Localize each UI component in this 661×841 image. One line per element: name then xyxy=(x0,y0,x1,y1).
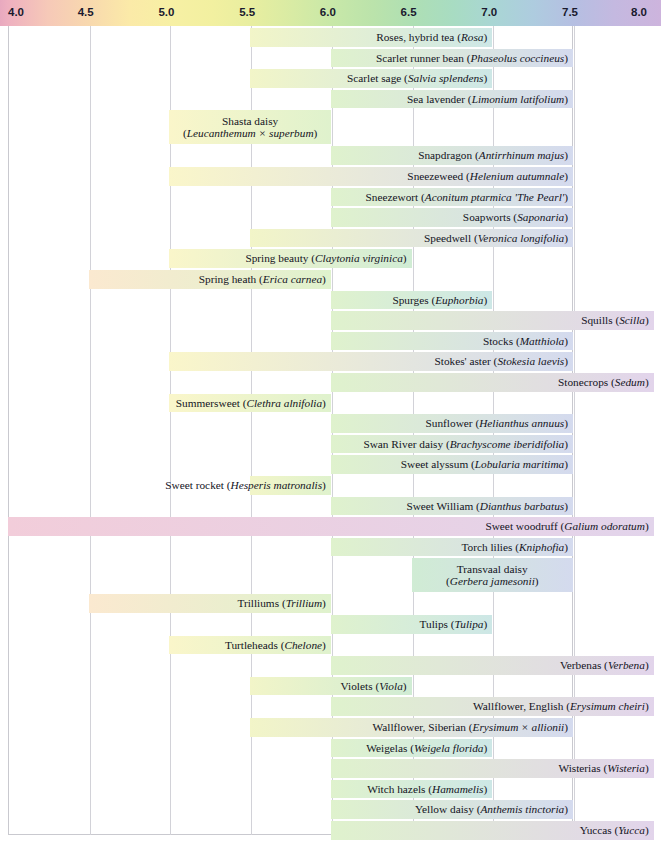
ph-range-bar[interactable]: Stokes' aster (Stokesia laevis) xyxy=(169,352,573,371)
ph-tick-7-0: 7.0 xyxy=(481,4,497,20)
plant-name-label: Transvaal daisy(Gerbera jamesonii) xyxy=(446,563,539,588)
ph-range-bar[interactable]: Turtleheads (Chelone) xyxy=(169,636,330,655)
ph-range-bar[interactable]: Spring heath (Erica carnea) xyxy=(89,270,331,289)
ph-tick-6-0: 6.0 xyxy=(320,4,336,20)
plant-latin-name: Helenium autumnale xyxy=(470,170,564,182)
plant-name-label: Yuccas (Yucca) xyxy=(580,824,649,837)
table-row: Stokes' aster (Stokesia laevis) xyxy=(0,352,661,371)
plant-name-label: Violets (Viola) xyxy=(341,680,407,693)
ph-range-bar[interactable]: Swan River daisy (Brachyscome iberidifol… xyxy=(331,435,573,454)
ph-range-bar[interactable]: Yellow daisy (Anthemis tinctoria) xyxy=(331,800,573,819)
ph-range-bar[interactable]: Sweet William (Dianthus barbatus) xyxy=(331,497,573,516)
plant-name-label: Sea lavender (Limonium latifolium) xyxy=(407,93,568,106)
plant-latin-name: Dianthus barbatus xyxy=(480,500,564,512)
plant-bar-rows: Roses, hybrid tea (Rosa)Scarlet runner b… xyxy=(0,26,661,841)
ph-range-bar[interactable]: Sweet woodruff (Galium odoratum) xyxy=(8,517,654,536)
plant-latin-name: Erysimum × allionii xyxy=(472,721,564,733)
table-row: Trilliums (Trillium) xyxy=(0,594,661,613)
plant-common-name: Sneezeweed xyxy=(407,170,463,182)
plant-latin-name: Kniphofia xyxy=(519,541,564,553)
plant-common-name: Spring heath xyxy=(199,273,256,285)
ph-range-bar[interactable]: Snapdragon (Antirrhinum majus) xyxy=(331,146,573,165)
ph-range-bar[interactable]: Wallflower, English (Erysimum cheiri) xyxy=(331,697,654,716)
plant-latin-name: Brachyscome iberidifolia xyxy=(450,438,565,450)
plant-common-name: Wallflower, English xyxy=(473,700,563,712)
ph-range-bar[interactable]: Yuccas (Yucca) xyxy=(331,821,654,840)
ph-range-bar[interactable]: Trilliums (Trillium) xyxy=(89,594,331,613)
plant-latin-name: Lobularia maritima xyxy=(475,458,564,470)
plant-common-name: Roses, hybrid tea xyxy=(376,31,454,43)
ph-range-bar[interactable]: Violets (Viola) xyxy=(250,677,411,696)
ph-range-bar[interactable]: Weigelas (Weigela florida) xyxy=(331,739,492,758)
ph-range-bar[interactable]: Scarlet runner bean (Phaseolus coccineus… xyxy=(331,49,573,68)
ph-range-bar[interactable]: Sneezewort (Aconitum ptarmica 'The Pearl… xyxy=(331,188,573,207)
ph-range-bar[interactable]: Sea lavender (Limonium latifolium) xyxy=(331,90,573,109)
plant-name-label: Sweet rocket (Hesperis matronalis) xyxy=(165,479,326,492)
plant-common-name: Yuccas xyxy=(580,824,612,836)
plant-latin-name: Saponaria xyxy=(517,211,564,223)
ph-range-bar[interactable]: Speedwell (Veronica longifolia) xyxy=(250,229,573,248)
plant-name-label: Scarlet runner bean (Phaseolus coccineus… xyxy=(376,52,568,65)
plant-name-label: Wisterias (Wisteria) xyxy=(558,762,648,775)
plant-latin-name: Stokesia laevis xyxy=(497,355,564,367)
ph-range-bar[interactable]: Sweet rocket (Hesperis matronalis) xyxy=(250,476,331,495)
plant-name-label: Swan River daisy (Brachyscome iberidifol… xyxy=(363,438,568,451)
table-row: Speedwell (Veronica longifolia) xyxy=(0,229,661,248)
table-row: Weigelas (Weigela florida) xyxy=(0,739,661,758)
table-row: Spurges (Euphorbia) xyxy=(0,291,661,310)
table-row: Yellow daisy (Anthemis tinctoria) xyxy=(0,800,661,819)
plant-latin-name: Euphorbia xyxy=(435,294,483,306)
ph-range-bar[interactable]: Witch hazels (Hamamelis) xyxy=(331,780,492,799)
plant-latin-name: Sedum xyxy=(615,376,645,388)
ph-range-bar[interactable]: Stonecrops (Sedum) xyxy=(331,373,654,392)
plant-common-name: Sweet rocket xyxy=(165,479,224,491)
plant-common-name: Transvaal daisy xyxy=(457,563,528,575)
ph-range-bar[interactable]: Torch lilies (Kniphofia) xyxy=(331,538,573,557)
plant-latin-name: Salvia splendens xyxy=(408,72,484,84)
plant-latin-name: Gerbera jamesonii xyxy=(450,575,535,587)
plant-common-name: Trilliums xyxy=(237,597,279,609)
table-row: Sweet woodruff (Galium odoratum) xyxy=(0,517,661,536)
plant-name-label: Spurges (Euphorbia) xyxy=(392,294,487,307)
ph-range-bar[interactable]: Soapworts (Saponaria) xyxy=(331,208,573,227)
ph-range-bar[interactable]: Squills (Scilla) xyxy=(331,311,654,330)
ph-range-bar[interactable]: Summersweet (Clethra alnifolia) xyxy=(169,394,330,413)
ph-range-bar[interactable]: Shasta daisy(Leucanthemum × superbum) xyxy=(169,110,330,144)
ph-range-bar[interactable]: Stocks (Matthiola) xyxy=(331,332,573,351)
plant-common-name: Wallflower, Siberian xyxy=(373,721,466,733)
plant-common-name: Turtleheads xyxy=(225,639,278,651)
ph-range-bar[interactable]: Sneezeweed (Helenium autumnale) xyxy=(169,167,573,186)
plant-latin-name: Veronica longifolia xyxy=(478,232,565,244)
table-row: Sneezewort (Aconitum ptarmica 'The Pearl… xyxy=(0,188,661,207)
table-row: Sneezeweed (Helenium autumnale) xyxy=(0,167,661,186)
ph-tick-7-5: 7.5 xyxy=(562,4,578,20)
ph-range-bar[interactable]: Transvaal daisy(Gerbera jamesonii) xyxy=(412,558,573,592)
plant-name-label: Wallflower, English (Erysimum cheiri) xyxy=(473,700,649,713)
plant-latin-name: Galium odoratum xyxy=(564,520,645,532)
table-row: Scarlet sage (Salvia splendens) xyxy=(0,69,661,88)
plant-common-name: Summersweet xyxy=(176,397,240,409)
ph-range-bar[interactable]: Sunflower (Helianthus annuus) xyxy=(331,414,573,433)
ph-tick-5-5: 5.5 xyxy=(239,4,255,20)
ph-range-bar[interactable]: Sweet alyssum (Lobularia maritima) xyxy=(331,455,573,474)
table-row: Torch lilies (Kniphofia) xyxy=(0,538,661,557)
table-row: Snapdragon (Antirrhinum majus) xyxy=(0,146,661,165)
plant-common-name: Violets xyxy=(341,680,373,692)
plant-common-name: Spring beauty xyxy=(245,252,308,264)
ph-range-bar[interactable]: Tulips (Tulipa) xyxy=(331,615,492,634)
plant-common-name: Sweet woodruff xyxy=(485,520,557,532)
plant-latin-name: Viola xyxy=(379,680,403,692)
plant-latin-name: Leucanthemum × superbum xyxy=(187,127,314,139)
plant-common-name: Soapworts xyxy=(463,211,511,223)
plant-latin-name: Tulipa xyxy=(455,618,484,630)
ph-range-bar[interactable]: Wisterias (Wisteria) xyxy=(331,759,654,778)
plant-common-name: Wisterias xyxy=(558,762,600,774)
ph-range-bar[interactable]: Spurges (Euphorbia) xyxy=(331,291,492,310)
ph-range-bar[interactable]: Verbenas (Verbena) xyxy=(331,656,654,675)
table-row: Wallflower, English (Erysimum cheiri) xyxy=(0,697,661,716)
ph-range-bar[interactable]: Wallflower, Siberian (Erysimum × allioni… xyxy=(250,718,573,737)
ph-range-bar[interactable]: Roses, hybrid tea (Rosa) xyxy=(250,28,492,47)
table-row: Spring beauty (Claytonia virginica) xyxy=(0,249,661,268)
ph-range-bar[interactable]: Scarlet sage (Salvia splendens) xyxy=(250,69,492,88)
ph-range-bar[interactable]: Spring beauty (Claytonia virginica) xyxy=(169,249,411,268)
